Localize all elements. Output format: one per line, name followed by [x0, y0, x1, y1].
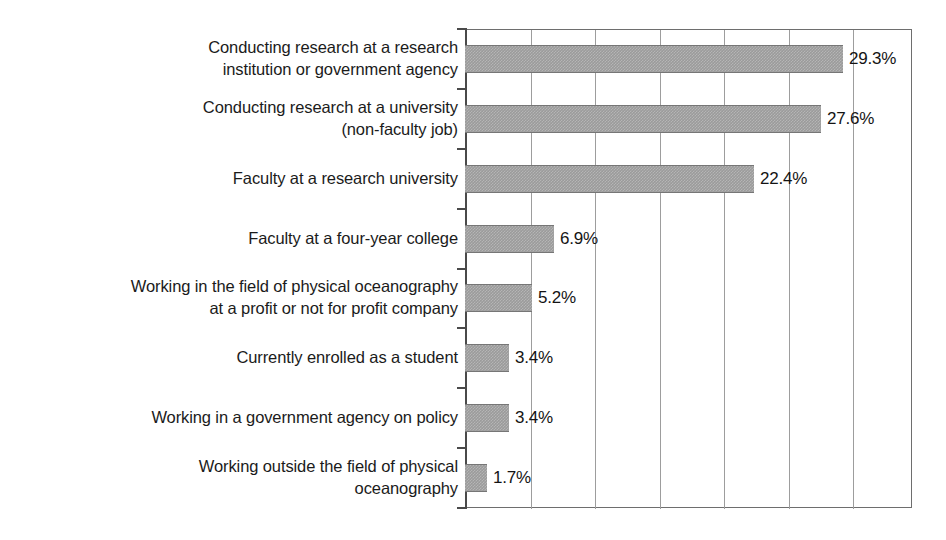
gridline-25: [789, 30, 790, 509]
axis-tick: [457, 208, 466, 210]
category-label: Working in a government agency on policy: [0, 406, 458, 428]
category-label: Working outside the field of physical oc…: [0, 455, 458, 499]
bar: [465, 464, 487, 492]
bar-value-label: 3.4%: [515, 348, 553, 368]
gridline-10: [595, 30, 596, 509]
category-label-column: Conducting research at a research instit…: [0, 29, 458, 508]
bar: [465, 105, 821, 133]
gridline-20: [724, 30, 725, 509]
bar-value-label: 22.4%: [760, 169, 807, 189]
bar: [465, 284, 532, 312]
bar-value-label: 6.9%: [560, 229, 598, 249]
category-label: Conducting research at a research instit…: [0, 36, 458, 80]
bar-chart: Conducting research at a research instit…: [0, 0, 946, 540]
bar-value-label: 29.3%: [849, 49, 896, 69]
axis-tick: [457, 387, 466, 389]
axis-tick: [457, 447, 466, 449]
bar: [465, 404, 509, 432]
axis-tick: [457, 507, 466, 509]
axis-tick: [457, 327, 466, 329]
bar-value-label: 3.4%: [515, 408, 553, 428]
category-label: Working in the field of physical oceanog…: [0, 275, 458, 319]
bar: [465, 45, 843, 73]
gridline-30: [853, 30, 854, 509]
category-label: Currently enrolled as a student: [0, 346, 458, 368]
gridline-5: [531, 30, 532, 509]
bar-value-label: 1.7%: [493, 468, 531, 488]
axis-tick: [457, 268, 466, 270]
category-label: Faculty at a four-year college: [0, 227, 458, 249]
axis-tick: [457, 88, 466, 90]
bar: [465, 165, 754, 193]
category-label: Conducting research at a university (non…: [0, 96, 458, 140]
gridline-15: [660, 30, 661, 509]
bar: [465, 344, 509, 372]
bar-value-label: 5.2%: [538, 288, 576, 308]
axis-tick: [457, 148, 466, 150]
bar-value-label: 27.6%: [827, 109, 874, 129]
plot-area: [465, 29, 912, 508]
bar: [465, 225, 554, 253]
axis-tick: [457, 28, 466, 30]
category-label: Faculty at a research university: [0, 167, 458, 189]
